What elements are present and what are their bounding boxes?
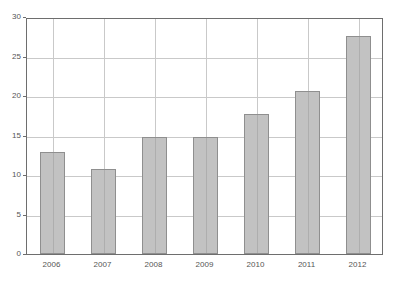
- y-axis-tick-label: 15: [1, 132, 21, 140]
- y-axis-tick-mark: [23, 175, 26, 176]
- bar-2009: [193, 137, 218, 254]
- bar-2007: [91, 169, 116, 254]
- x-axis-tick-label: 2007: [77, 260, 128, 269]
- gridline-horizontal: [27, 97, 382, 98]
- bar-2010: [244, 114, 269, 254]
- y-axis-tick-label: 0: [1, 250, 21, 258]
- y-axis-tick-label: 30: [1, 13, 21, 21]
- y-axis-tick-mark: [23, 17, 26, 18]
- y-axis-tick-mark: [23, 96, 26, 97]
- x-axis-tick-label: 2006: [26, 260, 77, 269]
- bar-2006: [40, 152, 65, 254]
- y-axis-tick-label: 10: [1, 171, 21, 179]
- gridline-horizontal: [27, 58, 382, 59]
- bar-chart: 0510152025302006200720082009201020112012: [0, 0, 398, 282]
- y-axis-tick-mark: [23, 57, 26, 58]
- x-axis-tick-label: 2010: [230, 260, 281, 269]
- y-axis-tick-label: 5: [1, 211, 21, 219]
- y-axis-tick-label: 20: [1, 92, 21, 100]
- y-axis-tick-mark: [23, 215, 26, 216]
- bar-2012: [346, 36, 371, 254]
- bar-2008: [142, 137, 167, 254]
- y-axis-tick-label: 25: [1, 53, 21, 61]
- y-axis-tick-mark: [23, 254, 26, 255]
- y-axis-tick-mark: [23, 136, 26, 137]
- plot-area: [26, 18, 383, 255]
- x-axis-tick-label: 2008: [128, 260, 179, 269]
- x-axis-tick-label: 2011: [281, 260, 332, 269]
- bar-2011: [295, 91, 320, 254]
- gridline-horizontal: [27, 18, 382, 19]
- x-axis-tick-label: 2012: [332, 260, 383, 269]
- x-axis-tick-label: 2009: [179, 260, 230, 269]
